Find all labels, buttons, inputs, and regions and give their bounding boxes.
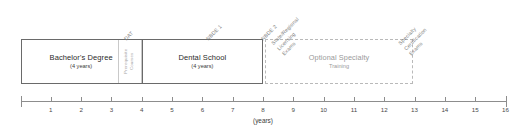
axis-tick-6 [202, 97, 203, 102]
axis-label-16: 16 [499, 106, 513, 113]
axis-label-7: 7 [226, 106, 240, 113]
axis-label-13: 13 [408, 106, 422, 113]
axis-label-15: 15 [468, 106, 482, 113]
stage-box-dental-school: Dental School(4 years) [142, 39, 263, 84]
inset-label-prerequisite-courses: PrerequisiteCourses [123, 49, 136, 74]
axis-tick-12 [384, 97, 385, 102]
axis-tick-13 [415, 97, 416, 102]
axis-tick-5 [172, 97, 173, 102]
axis-label-1: 1 [44, 106, 58, 113]
stage-subtitle-dental-school: (4 years) [191, 63, 213, 70]
inset-label-line: Courses [130, 49, 136, 74]
axis-label-8: 8 [256, 106, 270, 113]
axis-label-5: 5 [165, 106, 179, 113]
stage-title-dental-school: Dental School [178, 53, 226, 62]
axis-tick-10 [324, 97, 325, 102]
axis-label-4: 4 [135, 106, 149, 113]
axis-caption: (years) [233, 117, 293, 124]
axis-label-11: 11 [347, 106, 361, 113]
axis-label-2: 2 [74, 106, 88, 113]
axis-tick-11 [354, 97, 355, 102]
axis-tick-3 [111, 97, 112, 102]
axis-label-14: 14 [438, 106, 452, 113]
axis-tick-14 [445, 97, 446, 102]
axis-label-6: 6 [195, 106, 209, 113]
stage-subtitle-optional-specialty: Training [329, 63, 349, 70]
axis-tick-4 [142, 97, 143, 102]
axis-label-10: 10 [317, 106, 331, 113]
inset-box-prerequisite-courses: PrerequisiteCourses [118, 40, 142, 83]
stage-subtitle-bachelors: (4 years) [70, 63, 92, 70]
axis-label-12: 12 [377, 106, 391, 113]
axis-tick-15 [475, 97, 476, 102]
axis-endcap-left [21, 96, 22, 107]
axis-tick-1 [51, 97, 52, 102]
stage-title-bachelors: Bachelor's Degree [50, 53, 113, 62]
axis-tick-7 [233, 97, 234, 102]
dental-career-timeline-diagram: Bachelor's Degree(4 years)Dental School(… [0, 0, 527, 131]
axis-tick-2 [81, 97, 82, 102]
axis-tick-8 [263, 97, 264, 102]
axis-label-9: 9 [286, 106, 300, 113]
axis-label-3: 3 [104, 106, 118, 113]
axis-tick-9 [293, 97, 294, 102]
stage-title-optional-specialty: Optional Specialty [309, 53, 370, 62]
